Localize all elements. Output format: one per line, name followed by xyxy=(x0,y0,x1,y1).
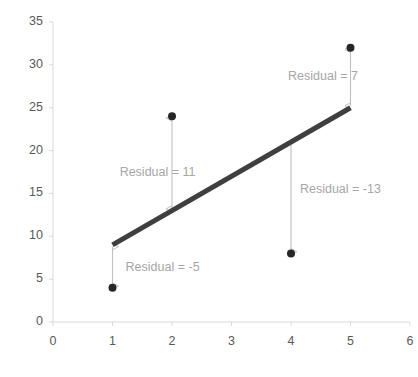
x-axis-tick-label: 0 xyxy=(33,334,73,348)
residual-label: Residual = -5 xyxy=(126,260,200,274)
x-axis-tick-label: 1 xyxy=(93,334,133,348)
y-axis-tick-label: 15 xyxy=(7,185,43,199)
data-point xyxy=(109,284,117,292)
data-point xyxy=(168,112,176,120)
y-axis-tick-label: 20 xyxy=(7,143,43,157)
y-axis-tick-label: 5 xyxy=(7,271,43,285)
x-axis-tick-label: 5 xyxy=(331,334,371,348)
axes-group xyxy=(49,22,410,326)
residual-plot: 05101520253035 0123456 Residual = -5Resi… xyxy=(0,0,418,377)
x-axis-tick-label: 4 xyxy=(271,334,311,348)
data-point xyxy=(287,249,295,257)
residual-label: Residual = -13 xyxy=(300,182,381,196)
x-axis-tick-label: 6 xyxy=(390,334,418,348)
residual-label: Residual = 7 xyxy=(288,69,358,83)
y-axis-tick-label: 25 xyxy=(7,100,43,114)
y-axis-tick-label: 10 xyxy=(7,228,43,242)
x-axis-tick-label: 2 xyxy=(152,334,192,348)
y-axis-tick-label: 30 xyxy=(7,57,43,71)
y-axis-tick-label: 0 xyxy=(7,314,43,328)
x-axis-tick-label: 3 xyxy=(212,334,252,348)
residual-label: Residual = 11 xyxy=(120,165,196,179)
data-point xyxy=(347,44,355,52)
y-axis-tick-label: 35 xyxy=(7,14,43,28)
